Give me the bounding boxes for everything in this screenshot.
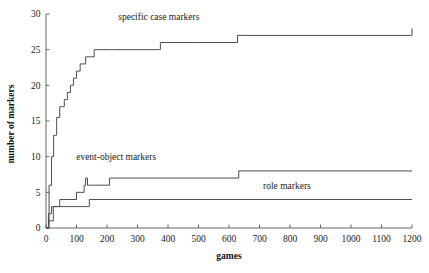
x-tick-label: 800 bbox=[283, 234, 298, 244]
x-tick-label: 0 bbox=[44, 234, 49, 244]
x-tick-label: 400 bbox=[161, 234, 176, 244]
y-tick-label: 15 bbox=[31, 116, 41, 126]
x-tick-label: 1100 bbox=[372, 234, 391, 244]
y-tick-label: 20 bbox=[31, 81, 41, 91]
chart-figure: 051015202530 010020030040050060070080090… bbox=[0, 0, 429, 273]
y-tick-label: 0 bbox=[36, 223, 41, 233]
series-annotation: role markers bbox=[263, 181, 311, 191]
series-annotation: specific case markers bbox=[118, 12, 200, 22]
x-axis-title: games bbox=[216, 251, 242, 261]
y-tick-label: 25 bbox=[31, 45, 41, 55]
series-group bbox=[46, 28, 412, 228]
series-annotation: event-object markers bbox=[76, 152, 156, 162]
y-tick-label: 10 bbox=[31, 152, 41, 162]
series-line-specific-case-markers bbox=[46, 28, 412, 228]
x-tick-group bbox=[46, 225, 412, 229]
x-tick-label: 200 bbox=[100, 234, 115, 244]
annotation-group: specific case markersevent-object marker… bbox=[76, 12, 311, 192]
x-tick-label: 500 bbox=[191, 234, 206, 244]
y-tick-label: 5 bbox=[36, 188, 41, 198]
y-axis-title: number of markers bbox=[6, 84, 16, 163]
x-tick-label: 300 bbox=[130, 234, 145, 244]
y-tick-label: 30 bbox=[31, 9, 41, 19]
x-tick-label: 1000 bbox=[342, 234, 361, 244]
x-tick-label-group: 0100200300400500600700800900100011001200 bbox=[44, 234, 422, 244]
x-tick-label: 900 bbox=[313, 234, 328, 244]
series-line-role-markers bbox=[46, 199, 412, 228]
x-tick-label: 1200 bbox=[403, 234, 422, 244]
x-tick-label: 100 bbox=[69, 234, 84, 244]
plot-axes bbox=[46, 14, 412, 228]
x-tick-label: 700 bbox=[252, 234, 267, 244]
x-tick-label: 600 bbox=[222, 234, 237, 244]
line-chart: 051015202530 010020030040050060070080090… bbox=[0, 0, 429, 273]
y-tick-label-group: 051015202530 bbox=[31, 9, 41, 233]
